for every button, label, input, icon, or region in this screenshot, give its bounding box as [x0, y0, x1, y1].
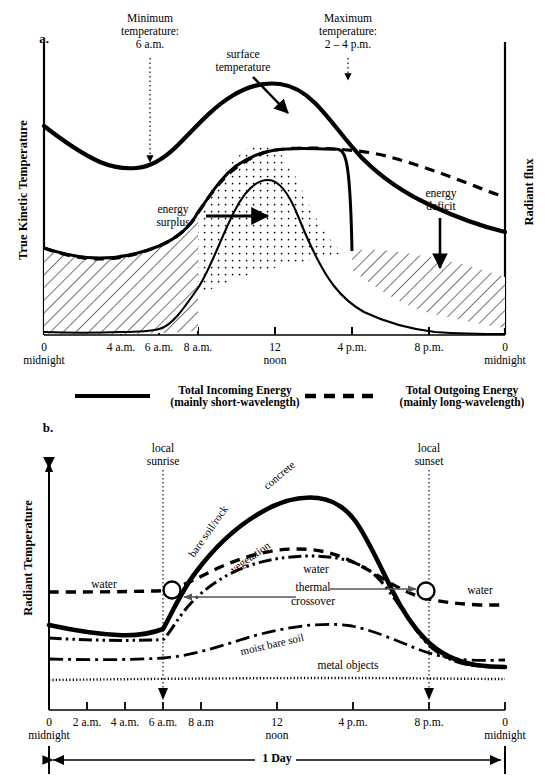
panel-a-label: a.: [34, 32, 54, 47]
panel-b-y-axis-label: Radiant Temperature: [21, 483, 35, 633]
panel-a-xtick-4-sub: noon: [255, 354, 295, 367]
legend-total-incoming-energy-line1: Total Incoming Energy: [155, 384, 315, 397]
panel-b-xtick-5-sub: noon: [257, 729, 297, 742]
legend-total-outgoing-energy-line2: (mainly long-wavelength): [383, 396, 541, 409]
local-sunset-annotation: local sunset: [394, 442, 464, 468]
panel-b-xtick-0-sub: midnight: [19, 729, 79, 742]
panel-b-xtick-8: 0: [490, 716, 520, 729]
panel-b-xtick-4: 8 a.m: [176, 716, 226, 729]
panel-a-xtick-7-sub: midnight: [475, 354, 535, 367]
minimum-temperature-annotation: Minimum temperature: 6 a.m.: [100, 12, 200, 51]
energy-surplus-annotation: energy surplus: [140, 203, 206, 229]
panel-a-xtick-0-sub: midnight: [14, 354, 74, 367]
legend-total-incoming-energy-line2: (mainly short-wavelength): [155, 396, 315, 409]
thermal-crossover-marker-sunset: [418, 583, 435, 600]
panel-a-xtick-5: 4 p.m.: [326, 341, 378, 354]
panel-a-xtick-0: 0: [29, 341, 59, 354]
curve-label-metal-objects: metal objects: [303, 659, 393, 672]
thermal-crossover-annotation: thermal crossover: [275, 581, 351, 608]
panel-a-xtick-3: 8 a.m.: [172, 341, 224, 354]
panel-b-xtick-6: 4 p.m.: [327, 716, 379, 729]
panel-a-xtick-4: 12: [260, 341, 290, 354]
local-sunrise-annotation: local sunrise: [128, 442, 198, 468]
curve-label-water-mid: water: [291, 563, 341, 576]
surface-temperature-annotation: surface temperature: [198, 48, 288, 74]
energy-deficit-annotation: energy deficit: [408, 187, 474, 213]
panel-a-xtick-6: 8 p.m.: [403, 341, 455, 354]
curve-label-water-right: water: [455, 584, 505, 597]
panel-b-xtick-7: 8 p.m.: [403, 716, 455, 729]
panel-b-xtick-0: 0: [34, 716, 64, 729]
panel-a-y-axis-left-label: True Kinetic Temperature: [16, 105, 30, 275]
panel-a-xtick-7: 0: [490, 341, 520, 354]
legend-total-outgoing-energy-line1: Total Outgoing Energy: [383, 384, 541, 397]
curve-label-water-left: water: [79, 578, 129, 591]
panel-a-y-axis-right-label: Radiant flux: [522, 137, 536, 247]
thermal-crossover-marker-sunrise: [164, 582, 181, 599]
panel-b-xtick-5: 12: [262, 716, 292, 729]
one-day-span-label: 1 Day: [247, 752, 307, 765]
maximum-temperature-annotation: Maximum temperature: 2 – 4 p.m.: [298, 12, 398, 51]
panel-b-label: b.: [38, 421, 58, 436]
panel-b-xtick-8-sub: midnight: [475, 729, 535, 742]
